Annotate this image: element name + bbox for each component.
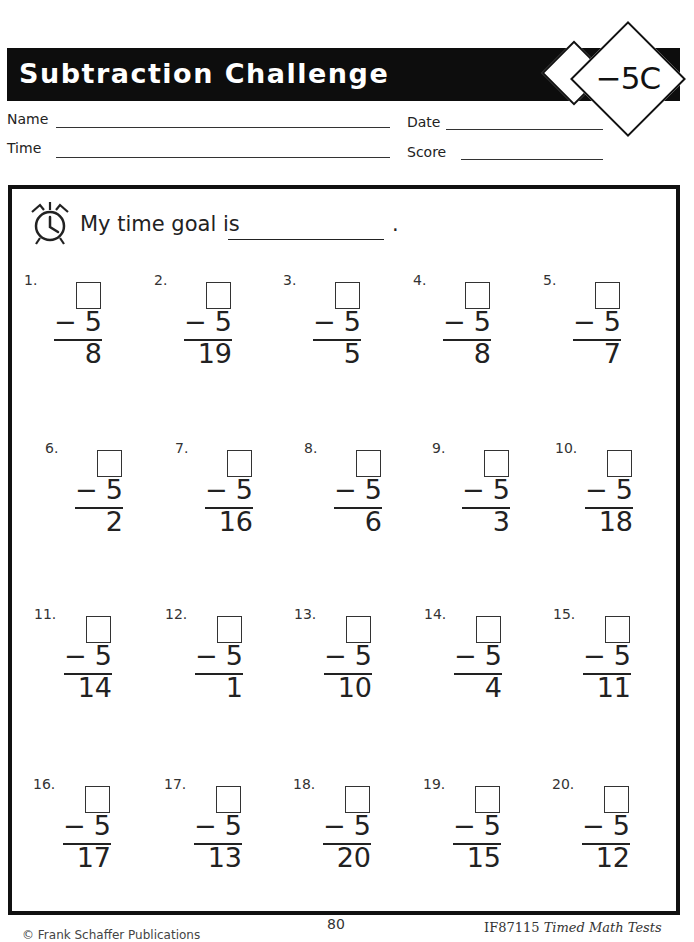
product-code: IF87115 bbox=[484, 920, 540, 935]
subtrahend: 5 bbox=[604, 306, 621, 337]
answer-box[interactable] bbox=[217, 616, 242, 643]
minus-sign: − bbox=[582, 810, 605, 841]
minus-sign: − bbox=[54, 306, 77, 337]
subtraction-row: −5 bbox=[195, 640, 243, 672]
difference: 12 bbox=[572, 842, 630, 873]
subtraction-row: −5 bbox=[454, 640, 502, 672]
answer-box[interactable] bbox=[605, 616, 630, 643]
problem-number: 11. bbox=[34, 606, 56, 622]
answer-box[interactable] bbox=[607, 450, 632, 477]
time-goal-period: . bbox=[392, 212, 399, 236]
answer-box[interactable] bbox=[85, 786, 110, 813]
date-field[interactable] bbox=[446, 129, 603, 130]
answer-box[interactable] bbox=[216, 786, 241, 813]
answer-box[interactable] bbox=[484, 450, 509, 477]
problem: 1. −5 8 bbox=[24, 272, 134, 392]
problem: 13. −5 10 bbox=[294, 606, 404, 726]
answer-box[interactable] bbox=[227, 450, 252, 477]
subtrahend: 5 bbox=[215, 306, 232, 337]
problem: 16. −5 17 bbox=[33, 776, 143, 896]
problem: 8. −5 6 bbox=[304, 440, 414, 560]
problem-number: 8. bbox=[304, 440, 317, 456]
subtraction-row: −5 bbox=[324, 640, 372, 672]
minus-sign: − bbox=[194, 810, 217, 841]
subtraction-row: −5 bbox=[453, 810, 501, 842]
answer-box[interactable] bbox=[86, 616, 111, 643]
minus-sign: − bbox=[205, 474, 228, 505]
answer-box[interactable] bbox=[476, 616, 501, 643]
answer-box[interactable] bbox=[346, 616, 371, 643]
problem-number: 4. bbox=[413, 272, 426, 288]
subtrahend: 5 bbox=[344, 306, 361, 337]
difference: 8 bbox=[44, 338, 102, 369]
difference: 7 bbox=[563, 338, 621, 369]
problem: 5. −5 7 bbox=[543, 272, 653, 392]
score-label: Score bbox=[407, 144, 446, 160]
subtraction-row: −5 bbox=[573, 306, 621, 338]
problem: 18. −5 20 bbox=[293, 776, 403, 896]
subtrahend: 5 bbox=[226, 640, 243, 671]
subtraction-row: −5 bbox=[462, 474, 510, 506]
score-field[interactable] bbox=[461, 159, 603, 160]
problem: 7. −5 16 bbox=[175, 440, 285, 560]
minus-sign: − bbox=[324, 640, 347, 671]
subtrahend: 5 bbox=[485, 640, 502, 671]
difference: 4 bbox=[444, 672, 502, 703]
time-label: Time bbox=[7, 140, 41, 156]
answer-box[interactable] bbox=[465, 282, 490, 309]
subtraction-row: −5 bbox=[184, 306, 232, 338]
problem: 15. −5 11 bbox=[553, 606, 663, 726]
problem: 11. −5 14 bbox=[34, 606, 144, 726]
answer-box[interactable] bbox=[345, 786, 370, 813]
problem-number: 1. bbox=[24, 272, 37, 288]
subtrahend: 5 bbox=[613, 810, 630, 841]
answer-box[interactable] bbox=[356, 450, 381, 477]
difference: 5 bbox=[303, 338, 361, 369]
answer-box[interactable] bbox=[595, 282, 620, 309]
subtrahend: 5 bbox=[365, 474, 382, 505]
subtrahend: 5 bbox=[474, 306, 491, 337]
name-field[interactable] bbox=[56, 127, 390, 128]
problem: 9. −5 3 bbox=[432, 440, 542, 560]
subtrahend: 5 bbox=[614, 640, 631, 671]
subtraction-row: −5 bbox=[194, 810, 242, 842]
minus-sign: − bbox=[313, 306, 336, 337]
copyright-text: © Frank Schaffer Publications bbox=[22, 928, 200, 942]
difference: 19 bbox=[174, 338, 232, 369]
subtraction-row: −5 bbox=[582, 810, 630, 842]
page-title: Subtraction Challenge bbox=[19, 54, 389, 94]
answer-box[interactable] bbox=[97, 450, 122, 477]
problem: 6. −5 2 bbox=[45, 440, 155, 560]
minus-sign: − bbox=[443, 306, 466, 337]
difference: 15 bbox=[443, 842, 501, 873]
time-field[interactable] bbox=[56, 157, 390, 158]
answer-box[interactable] bbox=[604, 786, 629, 813]
subtraction-row: −5 bbox=[64, 640, 112, 672]
subtrahend: 5 bbox=[236, 474, 253, 505]
subtraction-row: −5 bbox=[585, 474, 633, 506]
subtraction-row: −5 bbox=[583, 640, 631, 672]
subtrahend: 5 bbox=[106, 474, 123, 505]
time-goal-label: My time goal is bbox=[80, 212, 240, 236]
difference: 3 bbox=[452, 506, 510, 537]
problem-number: 17. bbox=[164, 776, 186, 792]
alarm-clock-icon bbox=[28, 200, 72, 248]
problem: 17. −5 13 bbox=[164, 776, 274, 896]
answer-box[interactable] bbox=[335, 282, 360, 309]
difference: 18 bbox=[575, 506, 633, 537]
problem-number: 7. bbox=[175, 440, 188, 456]
difference: 17 bbox=[53, 842, 111, 873]
time-goal-row: My time goal is . bbox=[26, 200, 446, 250]
answer-box[interactable] bbox=[475, 786, 500, 813]
problem-number: 10. bbox=[555, 440, 577, 456]
answer-box[interactable] bbox=[76, 282, 101, 309]
time-goal-field[interactable] bbox=[228, 239, 384, 240]
minus-sign: − bbox=[573, 306, 596, 337]
problem-number: 15. bbox=[553, 606, 575, 622]
difference: 16 bbox=[195, 506, 253, 537]
difference: 6 bbox=[324, 506, 382, 537]
subtrahend: 5 bbox=[493, 474, 510, 505]
answer-box[interactable] bbox=[206, 282, 231, 309]
difference: 11 bbox=[573, 672, 631, 703]
minus-sign: − bbox=[585, 474, 608, 505]
